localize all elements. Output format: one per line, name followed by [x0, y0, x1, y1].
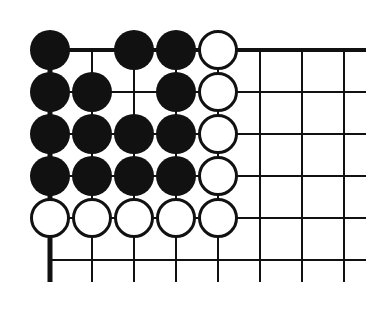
- black-stone: [156, 156, 196, 196]
- black-stone: [114, 114, 154, 154]
- white-stone: [158, 200, 195, 237]
- black-stone: [156, 30, 196, 70]
- white-stone: [200, 74, 237, 111]
- black-stone: [30, 30, 70, 70]
- black-stone: [156, 72, 196, 112]
- white-stone: [200, 116, 237, 153]
- black-stone: [114, 30, 154, 70]
- black-stone: [30, 156, 70, 196]
- white-stone: [74, 200, 111, 237]
- black-stone: [72, 114, 112, 154]
- black-stone: [72, 156, 112, 196]
- white-stone: [200, 200, 237, 237]
- black-stone: [156, 114, 196, 154]
- white-stone: [116, 200, 153, 237]
- stones: [30, 30, 237, 237]
- black-stone: [30, 114, 70, 154]
- go-board: [0, 0, 383, 310]
- white-stone: [32, 200, 69, 237]
- black-stone: [114, 156, 154, 196]
- white-stone: [200, 158, 237, 195]
- white-stone: [200, 32, 237, 69]
- black-stone: [72, 72, 112, 112]
- black-stone: [30, 72, 70, 112]
